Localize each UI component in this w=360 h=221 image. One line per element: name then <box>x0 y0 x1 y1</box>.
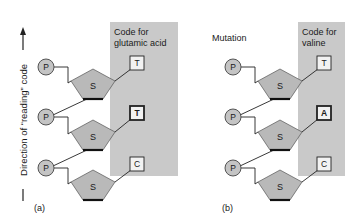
phosphate-label: P <box>230 62 236 72</box>
base-letter: T <box>134 58 139 68</box>
base-letter: T <box>134 108 140 118</box>
base-letter: T <box>321 58 326 68</box>
sugar-label: S <box>277 81 283 91</box>
code-label-line2: glutamic acid <box>114 38 167 48</box>
phosphate-label: P <box>230 112 236 122</box>
mutation-header: Mutation <box>212 33 247 43</box>
backbone-bond <box>240 150 274 166</box>
phosphate-sugar-bond <box>241 67 258 83</box>
base-letter: A <box>321 108 327 118</box>
code-label-line1: Code for <box>114 27 149 37</box>
phosphate-sugar-bond <box>54 168 71 184</box>
phosphate-sugar-bond <box>241 168 258 184</box>
reading-direction-axis: Direction of “reading” code <box>18 27 29 201</box>
phosphate-label: P <box>230 163 236 173</box>
base-letter: C <box>321 159 327 169</box>
phosphate-sugar-bond <box>241 117 258 134</box>
panel-b: Code for valine Mutation SPTSPASPC (b) <box>212 22 345 213</box>
phosphate-label: P <box>43 112 49 122</box>
backbone-bond <box>240 99 274 115</box>
panel-caption: (b) <box>222 203 233 213</box>
base-letter: C <box>134 159 140 169</box>
sugar-label: S <box>90 132 96 142</box>
panel-caption: (a) <box>34 203 45 213</box>
backbone-bond <box>53 150 87 166</box>
phosphate-label: P <box>43 62 49 72</box>
sugar-label: S <box>90 182 96 192</box>
code-label-line1: Code for <box>302 27 337 37</box>
phosphate-sugar-bond <box>54 67 71 83</box>
sugar-label: S <box>90 81 96 91</box>
arrow-up-icon <box>20 27 26 35</box>
phosphate-label: P <box>43 163 49 173</box>
sugar-label: S <box>277 182 283 192</box>
dna-mutation-diagram: Direction of “reading” code Code for glu… <box>0 0 360 221</box>
phosphate-sugar-bond <box>54 117 71 134</box>
axis-label: Direction of “reading” code <box>18 64 29 176</box>
code-label-line2: valine <box>302 38 326 48</box>
panel-a: Code for glutamic acid SPTSPTSPC (a) <box>34 22 178 213</box>
sugar-label: S <box>277 132 283 142</box>
backbone-bond <box>53 99 87 115</box>
